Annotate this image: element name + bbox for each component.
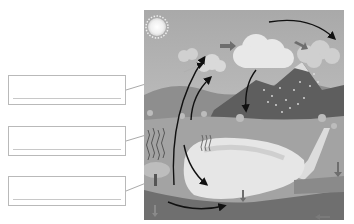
- label-box-2[interactable]: [8, 126, 126, 156]
- answer-line: [13, 98, 121, 99]
- label-box-1[interactable]: [8, 75, 126, 105]
- leader-line-3: [126, 183, 146, 191]
- leader-line-2: [126, 135, 146, 141]
- label-box-3[interactable]: [8, 176, 126, 206]
- answer-line: [13, 149, 121, 150]
- answer-line: [13, 199, 121, 200]
- water-cycle-illustration: [144, 10, 344, 220]
